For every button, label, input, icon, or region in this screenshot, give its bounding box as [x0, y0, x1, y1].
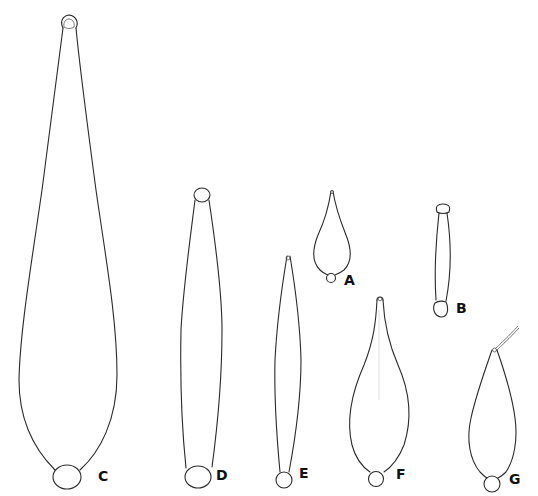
specimen-a: A: [314, 190, 355, 288]
label-b: B: [456, 300, 467, 316]
specimen-c: C: [19, 15, 117, 489]
specimen-e: E: [275, 256, 309, 488]
label-e: E: [299, 465, 309, 481]
label-a: A: [344, 272, 355, 288]
label-f: F: [396, 466, 406, 482]
specimen-f: F: [350, 297, 409, 487]
label-d: D: [216, 467, 228, 483]
specimen-b: B: [434, 204, 467, 317]
label-c: C: [98, 468, 108, 484]
label-g: G: [509, 471, 521, 487]
specimen-figure: C D E A B F: [0, 0, 538, 496]
specimen-d: D: [181, 188, 228, 488]
specimen-g: G: [469, 326, 521, 492]
